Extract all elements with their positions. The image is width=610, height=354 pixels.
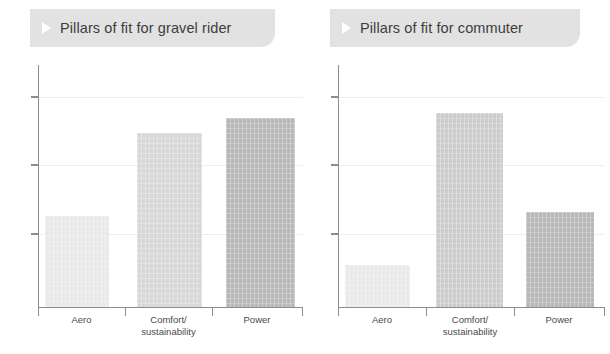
y-axis-tick xyxy=(331,96,339,98)
x-axis-line xyxy=(338,307,605,308)
chart-panels-container: Pillars of fit for gravel rider Aero xyxy=(0,0,610,354)
panel-commuter: Pillars of fit for commuter Aero xyxy=(305,0,610,354)
x-axis-line xyxy=(38,307,303,308)
y-axis-tick xyxy=(31,96,39,98)
bar-power xyxy=(226,118,295,308)
bar-aero xyxy=(345,265,410,308)
x-axis-label-aero: Aero xyxy=(338,314,426,326)
y-axis-tick xyxy=(331,164,339,166)
bar-power xyxy=(526,212,594,308)
y-axis-tick xyxy=(31,233,39,235)
x-axis-label-comfort-sustainability: Comfort/ sustainability xyxy=(125,314,212,337)
x-axis-tick xyxy=(604,307,605,316)
y-axis-tick xyxy=(331,233,339,235)
x-axis-label-power: Power xyxy=(514,314,604,326)
x-axis-label-comfort-sustainability: Comfort/ sustainability xyxy=(426,314,514,337)
panel-gravel-rider: Pillars of fit for gravel rider Aero xyxy=(0,0,305,354)
bar-comfort-sustainability xyxy=(436,113,503,308)
bar-aero xyxy=(45,216,109,308)
bar-chart-commuter: Aero Comfort/ sustainability Power xyxy=(305,0,610,354)
y-axis-line xyxy=(38,65,39,308)
x-axis-tick xyxy=(302,307,303,316)
y-axis-tick xyxy=(31,164,39,166)
x-axis-label-power: Power xyxy=(212,314,302,326)
y-axis-line xyxy=(338,65,339,308)
gridline xyxy=(338,97,605,98)
bar-chart-gravel-rider: Aero Comfort/ sustainability Power xyxy=(0,0,305,354)
bar-comfort-sustainability xyxy=(137,133,202,308)
gridline xyxy=(38,97,303,98)
x-axis-label-aero: Aero xyxy=(38,314,125,326)
